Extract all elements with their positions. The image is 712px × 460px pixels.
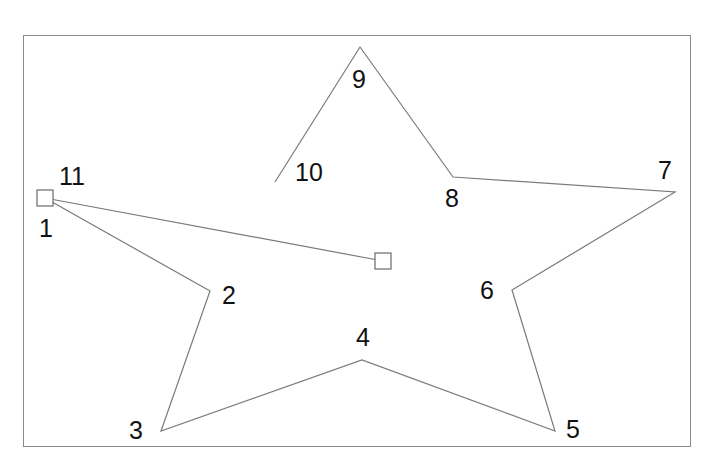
- vertex-label-8: 8: [445, 186, 459, 211]
- end-handle[interactable]: [375, 253, 391, 269]
- vertex-label-9: 9: [352, 67, 366, 92]
- vertex-label-2: 2: [222, 283, 236, 308]
- vertex-label-1: 1: [39, 216, 53, 241]
- vertex-label-3: 3: [129, 418, 143, 443]
- vertex-label-10: 10: [295, 160, 323, 185]
- vertex-label-11: 11: [59, 164, 85, 189]
- vertex-label-7: 7: [658, 158, 672, 183]
- vertex-label-4: 4: [356, 325, 370, 350]
- vertex-label-6: 6: [480, 278, 494, 303]
- star-polyline[interactable]: [45, 47, 675, 431]
- diagram-canvas: 1 2 3 4 5 6 7 8 9 10 11: [0, 0, 712, 460]
- handle-connector-line[interactable]: [45, 198, 383, 261]
- start-handle[interactable]: [37, 190, 53, 206]
- vertex-label-5: 5: [566, 417, 580, 442]
